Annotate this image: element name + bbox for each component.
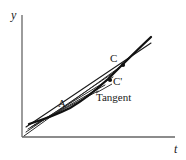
tangent-label: Tangent [96,92,131,103]
point-C-prime-label: C' [113,76,122,87]
point-C-marker [121,63,125,67]
function-curve [29,37,151,124]
x-axis-label: t [174,143,177,155]
y-axis-label: y [11,9,16,21]
point-A-label: A [58,98,66,109]
point-C-prime-marker [108,78,112,82]
diagram-canvas [0,0,186,160]
figure-container: y t A C C' Tangent [0,0,186,160]
point-C-label: C [110,53,117,64]
